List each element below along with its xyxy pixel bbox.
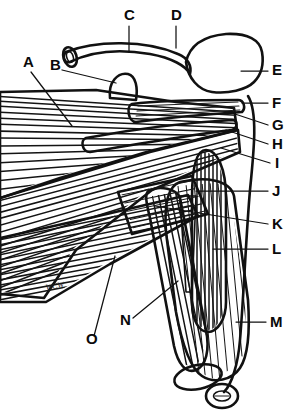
label-O: O (86, 330, 98, 347)
label-F: F (272, 94, 281, 111)
label-I: I (275, 154, 279, 171)
label-D: D (171, 6, 182, 23)
label-G: G (272, 116, 284, 133)
anatomy-figure: WCW A B C D E F G H (0, 0, 302, 419)
label-C: C (124, 6, 135, 23)
label-M: M (270, 313, 283, 330)
label-H: H (272, 135, 283, 152)
anatomy-illustration: WCW A B C D E F G H (0, 0, 302, 419)
biceps-long-head (192, 147, 226, 336)
label-K: K (272, 215, 283, 232)
label-L: L (272, 240, 281, 257)
label-E: E (272, 61, 282, 78)
label-B: B (50, 56, 61, 73)
label-A: A (23, 53, 34, 70)
label-J: J (272, 182, 280, 199)
label-N: N (120, 311, 131, 328)
